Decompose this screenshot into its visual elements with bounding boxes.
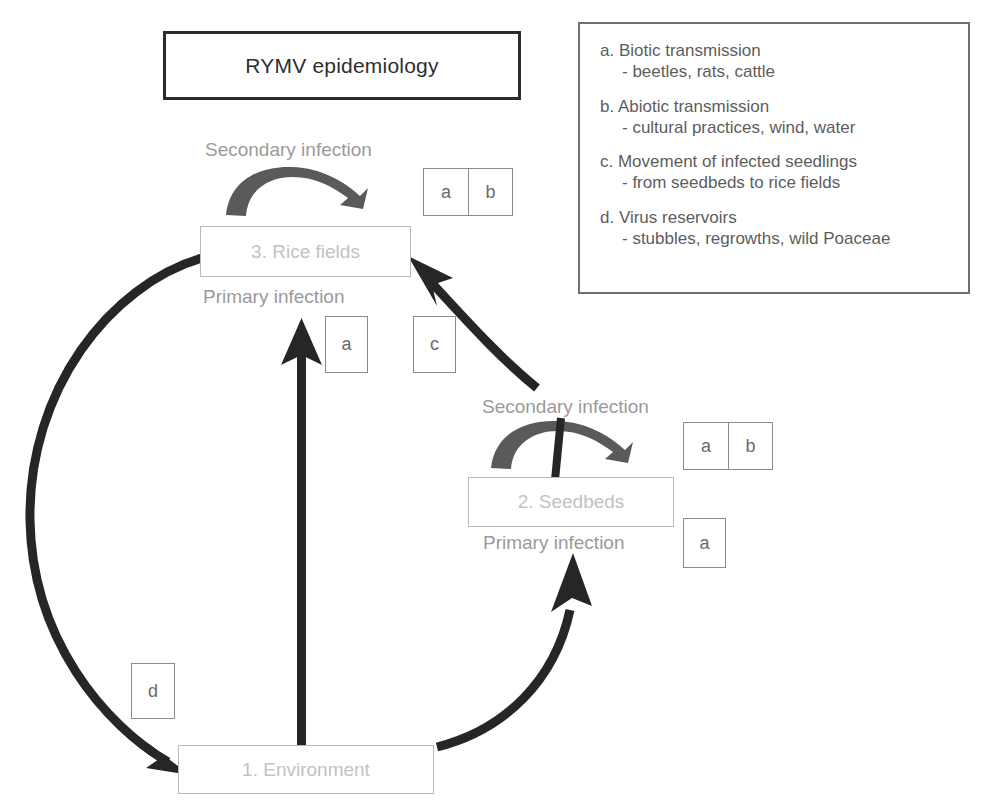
- label-primary-infection-seedbeds: Primary infection: [483, 532, 625, 554]
- code-box-environment-d: d: [131, 663, 175, 719]
- code-pair-seedbeds-secondary: a b: [683, 422, 773, 470]
- code-box-rice-secondary-b: b: [468, 169, 512, 215]
- node-rice-fields: 3. Rice fields: [200, 226, 411, 277]
- code-box-rice-primary-a: a: [325, 316, 368, 373]
- node-rice-fields-label: 3. Rice fields: [251, 241, 360, 263]
- node-environment-label: 1. Environment: [242, 759, 370, 781]
- node-seedbeds: 2. Seedbeds: [468, 477, 674, 527]
- node-seedbeds-label: 2. Seedbeds: [518, 491, 625, 513]
- label-secondary-infection-seedbeds: Secondary infection: [482, 396, 649, 418]
- label-primary-infection-rice: Primary infection: [203, 286, 345, 308]
- node-environment: 1. Environment: [178, 745, 434, 794]
- code-pair-rice-secondary: a b: [423, 168, 513, 216]
- code-box-rice-secondary-a: a: [424, 169, 468, 215]
- code-box-seedbeds-secondary-a: a: [684, 423, 728, 469]
- label-secondary-infection-rice: Secondary infection: [205, 139, 372, 161]
- arrow-environment-to-rice-fields: [281, 318, 322, 745]
- arc-environment-to-seedbeds: [437, 553, 592, 747]
- code-box-seedbeds-primary-a: a: [683, 518, 726, 568]
- code-box-seedbeds-secondary-b: b: [728, 423, 772, 469]
- code-box-rice-incoming-c: c: [413, 316, 456, 373]
- loop-arrow-rice-fields: [226, 167, 368, 216]
- arc-rice-to-environment: [30, 258, 202, 775]
- diagram-canvas: RYMV epidemiology a. Biotic transmission…: [0, 0, 981, 804]
